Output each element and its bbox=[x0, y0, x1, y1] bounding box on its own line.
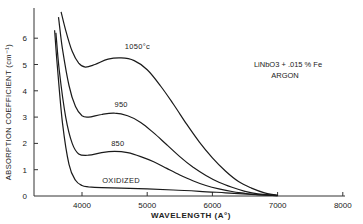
x-tick-label: 6000 bbox=[204, 201, 222, 210]
curves bbox=[55, 12, 278, 196]
curve-label: 950 bbox=[114, 100, 127, 109]
curve-1050-c bbox=[61, 12, 278, 195]
y-ticks: 0123456 bbox=[23, 34, 38, 201]
x-tick-label: 5000 bbox=[138, 201, 156, 210]
y-tick-label: 2 bbox=[23, 139, 28, 148]
x-axis-label: WAVELENGTH (A°) bbox=[151, 211, 231, 220]
y-tick-label: 0 bbox=[23, 192, 28, 201]
curve-label: 850 bbox=[111, 139, 124, 148]
curve-oxidized bbox=[55, 30, 278, 195]
curve-label: OXIDIZED bbox=[102, 176, 140, 185]
y-tick-label: 3 bbox=[23, 113, 28, 122]
axes bbox=[34, 8, 345, 196]
curve-850 bbox=[56, 33, 278, 196]
x-ticks: 40005000600070008000 bbox=[73, 192, 352, 210]
curve-label: 1050°c bbox=[125, 42, 150, 51]
x-tick-label: 4000 bbox=[73, 201, 91, 210]
y-axis-label: ABSORPTION COEFFICIENT (cm⁻¹) bbox=[4, 44, 13, 180]
y-tick-label: 5 bbox=[23, 61, 28, 70]
atmosphere-annotation: ARGON bbox=[271, 71, 299, 80]
y-tick-label: 1 bbox=[23, 166, 28, 175]
y-tick-label: 6 bbox=[23, 34, 28, 43]
y-tick-label: 4 bbox=[23, 87, 28, 96]
x-tick-label: 8000 bbox=[334, 201, 352, 210]
sample-annotation: LiNbO3 + .015 % Fe bbox=[254, 60, 322, 69]
x-tick-label: 7000 bbox=[269, 201, 287, 210]
absorption-chart: 0123456 40005000600070008000 1050°c95085… bbox=[0, 0, 363, 224]
